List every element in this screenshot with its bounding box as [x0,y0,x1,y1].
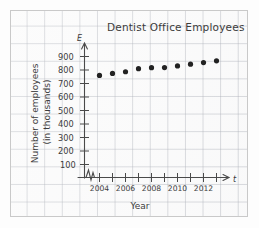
y-axis-symbol: E [77,34,83,43]
chart-title: Dentist Office Employees [107,21,245,33]
x-axis-label: Year [129,201,149,211]
data-point [188,62,193,67]
y-tick-label: 400 [58,119,74,129]
x-tick-label: 2004 [90,184,109,193]
data-point [162,65,167,70]
y-tick-label: 500 [58,106,74,116]
data-point [175,63,180,68]
data-point [97,73,102,78]
x-tick-label: 2010 [168,184,187,193]
x-tick-label: 2008 [142,184,161,193]
data-point [123,69,128,74]
x-axis-symbol: t [233,175,237,184]
y-tick-label: 600 [58,92,74,102]
axis-break-icon [86,170,95,180]
x-tick-label: 2006 [116,184,135,193]
y-tick-label: 900 [58,52,74,62]
y-axis-label: Number of employees (in thousands) [30,61,52,164]
data-point [110,71,115,76]
data-point [149,65,154,70]
data-point [136,66,141,71]
y-tick-label: 300 [58,133,74,143]
y-tick-label: 700 [58,79,74,89]
data-point-group [97,58,219,78]
x-tick-label: 2012 [194,184,213,193]
data-point [201,60,206,65]
scatter-chart: Dentist Office Employees E t 900 800 700… [0,0,259,228]
data-point [214,58,219,63]
y-tick-label: 800 [58,65,74,75]
y-tick-label: 100 [60,160,76,170]
y-tick-label: 200 [58,146,74,156]
x-tick-label-group: 2004 2006 2008 2010 2012 [90,184,213,193]
screenshot-root: Dentist Office Employees E t 900 800 700… [0,0,259,228]
